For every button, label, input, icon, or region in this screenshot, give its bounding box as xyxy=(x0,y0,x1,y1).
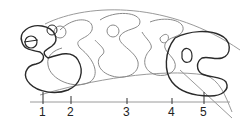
axis-label-4: 4 xyxy=(168,105,175,119)
axis-label-2: 2 xyxy=(67,105,74,119)
stage-shape-light-3 xyxy=(142,19,183,75)
eye-spot-light-3 xyxy=(160,34,168,42)
diagram-canvas: 1 2 3 4 5 xyxy=(0,0,252,130)
eye-spot-dark-5 xyxy=(182,49,192,63)
stage-shape-light-2 xyxy=(95,13,140,77)
axis-label-3: 3 xyxy=(123,105,130,119)
axis-label-1: 1 xyxy=(39,105,46,119)
eye-circle-light-2 xyxy=(107,25,119,37)
axis-label-5: 5 xyxy=(200,105,207,119)
morphology-diagram: 1 2 3 4 5 xyxy=(0,0,252,130)
eye-line-dark-1 xyxy=(24,40,38,42)
envelope-upper-arc xyxy=(45,10,240,50)
